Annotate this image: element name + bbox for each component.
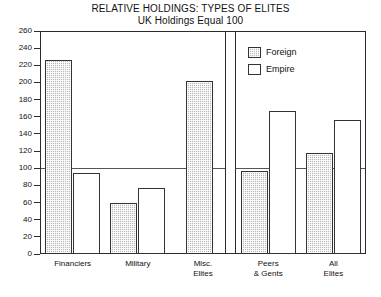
bar-foreign [241,171,268,254]
y-axis-tick-label: 100 [19,163,32,173]
y-axis-tick: 60 [0,198,40,208]
legend-swatch-empire-icon [248,64,261,75]
y-axis-tick: 100 [0,163,40,173]
y-axis-tick-label: 120 [19,146,32,156]
legend-label-empire: Empire [266,64,295,75]
y-axis-tick-label: 180 [19,95,32,105]
y-axis-tick-label: 140 [19,129,32,139]
y-axis-tick-label: 240 [19,43,32,53]
chart-root: RELATIVE HOLDINGS: TYPES OF ELITES UK Ho… [0,0,381,297]
y-axis-tick-label: 60 [23,198,32,208]
bar-empire [269,111,296,254]
bar-empire [138,188,165,254]
y-axis-tick-label: 160 [19,112,32,122]
y-axis-tick: 80 [0,180,40,190]
bar-foreign [110,203,137,254]
chart-title-block: RELATIVE HOLDINGS: TYPES OF ELITES UK Ho… [0,3,381,27]
bar-foreign [45,60,72,254]
y-axis-tick-label: 200 [19,77,32,87]
bars-layer [40,31,366,254]
y-axis-tick-label: 80 [23,180,32,190]
y-axis-tick-label: 260 [19,26,32,36]
legend-item-foreign: Foreign [248,45,297,59]
bar-empire [73,173,100,254]
y-axis-tick-label: 220 [19,60,32,70]
y-axis-tick-label: 40 [23,215,32,225]
bar-foreign [186,81,213,254]
y-axis-tick: 260 [0,26,40,36]
chart-legend: Foreign Empire [248,45,297,79]
y-axis-tick: 240 [0,43,40,53]
bar-foreign [306,153,333,254]
y-axis-tick: 0 [0,249,40,259]
y-axis-tick: 120 [0,146,40,156]
chart-title: RELATIVE HOLDINGS: TYPES OF ELITES [0,3,381,15]
y-axis-tick: 140 [0,129,40,139]
y-axis-tick: 40 [0,215,40,225]
x-axis-tick-label: All Elites [293,259,373,278]
y-axis-tick-label: 20 [23,232,32,242]
legend-label-foreign: Foreign [266,47,297,58]
y-axis-tick: 220 [0,60,40,70]
y-axis-tick: 20 [0,232,40,242]
y-axis-tick-label: 0 [28,249,32,259]
y-axis-tick: 160 [0,112,40,122]
y-axis-tick: 200 [0,77,40,87]
bars-inner [40,31,366,254]
y-axis-tick: 180 [0,95,40,105]
legend-item-empire: Empire [248,62,297,76]
legend-swatch-foreign-icon [248,47,261,58]
chart-subtitle: UK Holdings Equal 100 [0,15,381,27]
bar-empire [334,120,361,254]
